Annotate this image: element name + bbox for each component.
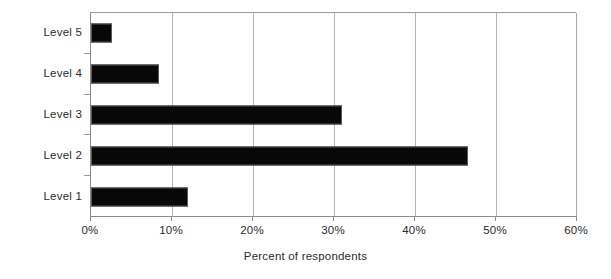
y-axis-label-level-1: Level 1 — [10, 190, 82, 202]
bar-level-1 — [91, 187, 188, 206]
x-tick-10 — [171, 216, 172, 221]
y-axis-label-level-5: Level 5 — [10, 26, 82, 38]
x-tick-label-30: 30% — [310, 224, 356, 236]
bar-row-level-4 — [91, 54, 576, 95]
x-tick-20 — [252, 216, 253, 221]
y-tick-3 — [84, 134, 90, 135]
y-axis-label-level-3: Level 3 — [10, 108, 82, 120]
bar-row-level-1 — [91, 176, 576, 217]
x-tick-label-20: 20% — [229, 224, 275, 236]
x-tick-60 — [576, 216, 577, 221]
y-tick-1 — [84, 53, 90, 54]
bar-row-level-5 — [91, 13, 576, 54]
x-tick-label-40: 40% — [391, 224, 437, 236]
y-tick-4 — [84, 175, 90, 176]
bar-row-level-2 — [91, 135, 576, 176]
x-tick-label-60: 60% — [553, 224, 599, 236]
plot-area — [90, 12, 576, 216]
x-tick-0 — [90, 216, 91, 221]
x-tick-label-10: 10% — [148, 224, 194, 236]
x-tick-30 — [333, 216, 334, 221]
y-axis-label-level-2: Level 2 — [10, 149, 82, 161]
x-tick-40 — [414, 216, 415, 221]
bar-level-3 — [91, 105, 342, 124]
bar-chart: Level 5 Level 4 Level 3 Level 2 Level 1 … — [0, 0, 611, 279]
bar-level-4 — [91, 65, 159, 84]
bar-level-2 — [91, 146, 468, 165]
x-tick-label-0: 0% — [67, 224, 113, 236]
x-tick-label-50: 50% — [472, 224, 518, 236]
bar-row-level-3 — [91, 95, 576, 136]
x-tick-50 — [495, 216, 496, 221]
y-tick-2 — [84, 94, 90, 95]
y-axis-label-level-4: Level 4 — [10, 67, 82, 79]
x-axis-title: Percent of respondents — [0, 250, 611, 262]
bar-level-5 — [91, 24, 112, 43]
gridline-60 — [576, 13, 577, 216]
